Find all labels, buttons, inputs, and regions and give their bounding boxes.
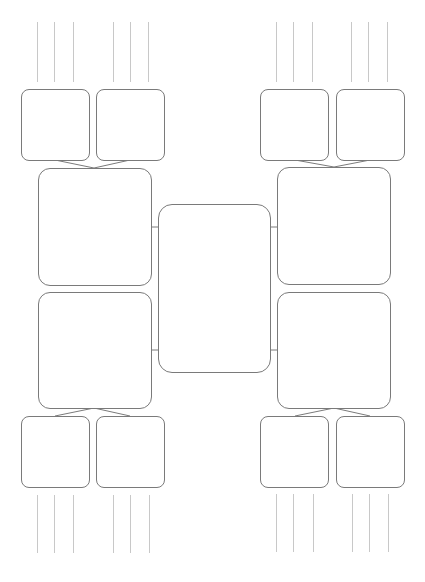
detail-line [276, 494, 277, 552]
bottom-right-child-box-2[interactable] [336, 416, 405, 488]
detail-line [37, 22, 38, 82]
detail-line [293, 494, 294, 552]
detail-line [113, 22, 114, 82]
top-right-main-box[interactable] [277, 167, 391, 285]
detail-line [130, 495, 131, 553]
bottom-right-child-box-1[interactable] [260, 416, 329, 488]
detail-line [276, 22, 277, 82]
detail-line [37, 495, 38, 553]
detail-line [387, 22, 388, 82]
diagram-canvas [0, 0, 425, 582]
detail-line [368, 22, 369, 82]
detail-line [73, 22, 74, 82]
detail-line [54, 22, 55, 82]
bottom-right-main-box[interactable] [277, 292, 391, 409]
detail-line [54, 495, 55, 553]
detail-line [73, 495, 74, 553]
top-left-child-box-2[interactable] [96, 89, 165, 161]
detail-line [369, 494, 370, 552]
detail-line [351, 22, 352, 82]
detail-line [312, 22, 313, 82]
top-right-child-box-1[interactable] [260, 89, 329, 161]
bottom-left-main-box[interactable] [38, 292, 152, 409]
detail-line [113, 495, 114, 553]
detail-line [313, 494, 314, 552]
center-box[interactable] [158, 204, 271, 373]
detail-line [293, 22, 294, 82]
bottom-left-child-box-2[interactable] [96, 416, 165, 488]
bottom-left-child-box-1[interactable] [21, 416, 90, 488]
detail-line [130, 22, 131, 82]
top-left-child-box-1[interactable] [21, 89, 90, 161]
detail-line [149, 495, 150, 553]
top-left-main-box[interactable] [38, 168, 152, 286]
top-right-child-box-2[interactable] [336, 89, 405, 161]
detail-line [148, 22, 149, 82]
detail-line [352, 494, 353, 552]
detail-line [388, 494, 389, 552]
